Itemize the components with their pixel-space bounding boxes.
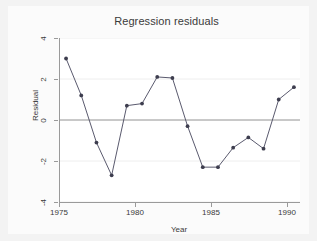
data-point-1981 xyxy=(155,75,159,79)
x-tick-label-1980: 1980 xyxy=(118,208,152,217)
y-tick-label-4: 4 xyxy=(39,30,48,48)
y-tick-mark-neg4 xyxy=(54,202,58,203)
data-point-1980 xyxy=(140,102,144,106)
data-point-markers xyxy=(64,57,296,178)
x-tick-label-1975: 1975 xyxy=(42,208,76,217)
x-axis-label: Year xyxy=(59,225,299,234)
x-tick-mark-1975 xyxy=(59,203,60,207)
x-tick-mark-1990 xyxy=(287,203,288,207)
x-tick-mark-1980 xyxy=(135,203,136,207)
y-tick-label-2: 2 xyxy=(39,71,48,89)
data-point-1985 xyxy=(216,165,220,169)
x-tick-label-1985: 1985 xyxy=(194,208,228,217)
data-point-1983 xyxy=(186,124,190,128)
y-tick-mark-neg2 xyxy=(54,161,58,162)
data-point-1975 xyxy=(64,57,68,61)
data-point-1978 xyxy=(110,173,114,177)
data-point-1990 xyxy=(292,85,296,89)
data-point-1977 xyxy=(95,141,99,145)
y-tick-mark-2 xyxy=(54,79,58,80)
residual-line-series xyxy=(66,59,294,176)
data-point-1989 xyxy=(277,98,281,102)
data-point-1988 xyxy=(262,147,266,151)
data-point-1984 xyxy=(201,165,205,169)
data-point-1976 xyxy=(79,94,83,98)
data-point-1982 xyxy=(171,76,175,80)
y-tick-mark-4 xyxy=(54,38,58,39)
graph-region: Regression residuals Residual Year 4 2 0… xyxy=(8,6,309,234)
plot-area xyxy=(59,38,300,203)
data-point-1979 xyxy=(125,104,129,108)
y-tick-label-neg2: -2 xyxy=(39,153,48,171)
x-tick-label-1990: 1990 xyxy=(270,208,304,217)
y-tick-label-0: 0 xyxy=(39,112,48,130)
chart-title: Regression residuals xyxy=(8,15,317,27)
data-point-1987 xyxy=(246,136,250,140)
chart-screenshot: Regression residuals Residual Year 4 2 0… xyxy=(0,0,317,241)
data-point-1986 xyxy=(231,146,235,150)
y-tick-mark-0 xyxy=(54,120,58,121)
residuals-line-chart xyxy=(60,38,300,202)
x-tick-mark-1985 xyxy=(211,203,212,207)
